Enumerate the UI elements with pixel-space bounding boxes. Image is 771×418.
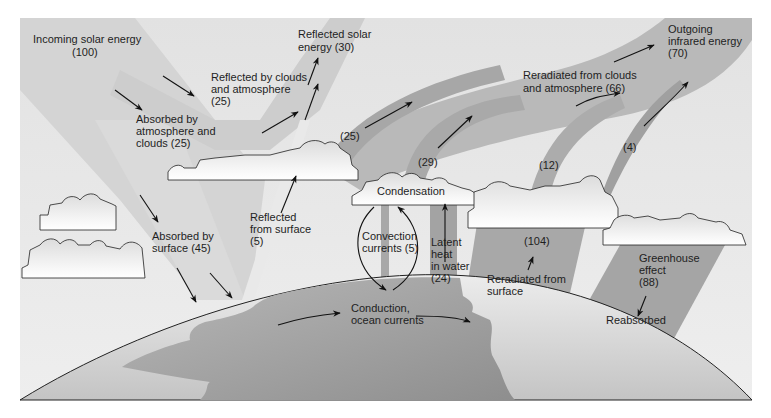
label-latent-line3: in water xyxy=(431,260,470,272)
label-convection-line1: Convection xyxy=(362,230,417,242)
label-latent-line4: (24) xyxy=(431,272,451,284)
label-reabsorbed: Reabsorbed xyxy=(606,314,666,326)
label-condensation: Condensation xyxy=(377,185,445,197)
label-greenhouse-line3: (88) xyxy=(639,276,659,288)
label-absorbed-atmos-line2: atmosphere and xyxy=(136,125,216,137)
label-reradiated-surface-line2: surface xyxy=(487,285,523,297)
label-104: (104) xyxy=(524,235,550,247)
label-absorbed-surface-line1: Absorbed by xyxy=(152,230,214,242)
label-reradiated-surface-line1: Reradiated from xyxy=(487,273,566,285)
label-outgoing-line3: (70) xyxy=(668,47,688,59)
label-band-12: (12) xyxy=(539,159,559,171)
label-absorbed-atmos-line1: Absorbed by xyxy=(136,113,198,125)
label-incoming-line1: Incoming solar energy xyxy=(33,33,142,45)
cloud-left-lower xyxy=(22,239,145,278)
label-greenhouse-line2: effect xyxy=(639,264,666,276)
label-convection-line2: currents (5) xyxy=(362,242,418,254)
label-absorbed-atmos-line3: clouds (25) xyxy=(136,137,190,149)
label-band-25: (25) xyxy=(340,130,360,142)
label-reflected-surface-line1: Reflected xyxy=(250,211,296,223)
label-reflected-surface-line3: (5) xyxy=(250,235,263,247)
diagram-canvas: Incoming solar energy (100) Reflected so… xyxy=(0,0,771,418)
label-conduction-line1: Conduction, xyxy=(351,302,410,314)
label-reflected-clouds-line1: Reflected by clouds xyxy=(211,71,307,83)
label-reradiated-clouds-line2: and atmosphere (66) xyxy=(523,82,625,94)
energy-budget-diagram: Incoming solar energy (100) Reflected so… xyxy=(0,0,771,418)
label-greenhouse-line1: Greenhouse xyxy=(639,252,700,264)
label-conduction-line2: ocean currents xyxy=(351,314,424,326)
label-reflected-solar-line2: energy (30) xyxy=(298,41,354,53)
label-reflected-clouds-line2: and atmosphere xyxy=(211,83,291,95)
label-reradiated-clouds-line1: Reradiated from clouds xyxy=(523,69,637,81)
label-outgoing-line2: infrared energy xyxy=(668,35,742,47)
label-band-4: (4) xyxy=(623,141,636,153)
label-reflected-solar-line1: Reflected solar xyxy=(298,28,372,40)
label-reflected-surface-line2: from surface xyxy=(250,223,311,235)
label-latent-line2: heat xyxy=(431,248,452,260)
label-absorbed-surface-line2: surface (45) xyxy=(152,242,211,254)
label-outgoing-line1: Outgoing xyxy=(668,23,713,35)
label-band-29: (29) xyxy=(418,156,438,168)
label-reflected-clouds-line3: (25) xyxy=(211,95,231,107)
label-latent-line1: Latent xyxy=(431,236,462,248)
label-incoming-line2: (100) xyxy=(72,46,98,58)
